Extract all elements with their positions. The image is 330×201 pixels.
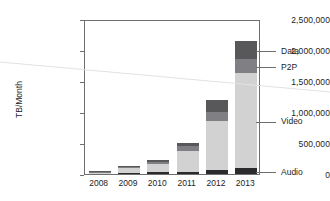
bar-segment-p2p[interactable]: [206, 112, 228, 121]
chart-container: TB/Month 0500,0001,000,0001,500,0002,000…: [0, 0, 330, 201]
legend-callout-line: [256, 122, 276, 123]
x-axis-tick-label: 2010: [142, 179, 172, 188]
y-axis-tick-label: 500,000: [252, 140, 330, 149]
bar-segment-data[interactable]: [206, 100, 228, 113]
y-axis-tick-label: 2,500,000: [252, 16, 330, 25]
y-axis-title: TB/Month: [15, 65, 24, 135]
bar-segment-video[interactable]: [177, 151, 199, 171]
legend-callout-line: [256, 67, 276, 68]
bar-segment-audio[interactable]: [177, 172, 199, 174]
bar-column[interactable]: [177, 19, 199, 174]
bar-segment-audio[interactable]: [147, 172, 169, 174]
bar-segment-data[interactable]: [235, 41, 257, 60]
bar-segment-audio[interactable]: [235, 168, 257, 174]
x-axis-tick-label: 2011: [172, 179, 202, 188]
x-axis-tick-label: 2013: [230, 179, 260, 188]
legend-label-audio: Audio: [281, 168, 303, 177]
legend-label-video: Video: [281, 117, 303, 126]
bar-segment-p2p[interactable]: [235, 59, 257, 73]
bar-segment-audio[interactable]: [118, 173, 140, 174]
bar-segment-data[interactable]: [177, 143, 199, 146]
bar-segment-p2p[interactable]: [147, 162, 169, 164]
bar-segment-p2p[interactable]: [118, 167, 140, 169]
x-axis-tick-label: 2009: [113, 179, 143, 188]
bar-segment-audio[interactable]: [206, 170, 228, 174]
legend-label-p2p: P2P: [281, 63, 297, 72]
bar-column[interactable]: [235, 19, 257, 174]
bar-segment-data[interactable]: [118, 166, 140, 167]
bar-segment-data[interactable]: [89, 171, 111, 172]
x-axis-tick-label: 2008: [84, 179, 114, 188]
x-axis-tick-label: 2012: [201, 179, 231, 188]
bar-segment-video[interactable]: [147, 164, 169, 173]
bar-segment-video[interactable]: [206, 121, 228, 170]
plot-area: [84, 20, 260, 175]
bar-column[interactable]: [206, 19, 228, 174]
y-axis-tick-mark: [80, 175, 84, 176]
legend-callout-line: [256, 172, 276, 173]
bar-segment-data[interactable]: [147, 160, 169, 162]
y-axis-tick-label: 1,500,000: [252, 78, 330, 87]
legend-label-data: Data: [281, 47, 299, 56]
bar-segment-p2p[interactable]: [177, 146, 199, 151]
bar-segment-video[interactable]: [235, 73, 257, 168]
bar-segment-video[interactable]: [89, 172, 111, 173]
bar-column[interactable]: [147, 19, 169, 174]
bar-column[interactable]: [89, 19, 111, 174]
legend-callout-line: [256, 51, 276, 52]
bar-column[interactable]: [118, 19, 140, 174]
bar-segment-video[interactable]: [118, 168, 140, 173]
